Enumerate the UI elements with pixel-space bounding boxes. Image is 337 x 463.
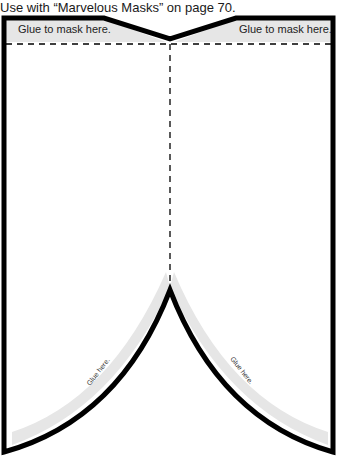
left-tab-label: Glue to mask here. bbox=[18, 23, 111, 35]
left-glue-strip bbox=[12, 272, 170, 445]
cut-outline bbox=[4, 18, 333, 452]
right-glue-strip bbox=[170, 272, 328, 445]
right-tab-label: Glue to mask here. bbox=[239, 23, 332, 35]
mask-template-cutout: Glue to mask here. Glue to mask here. Gl… bbox=[0, 0, 337, 463]
